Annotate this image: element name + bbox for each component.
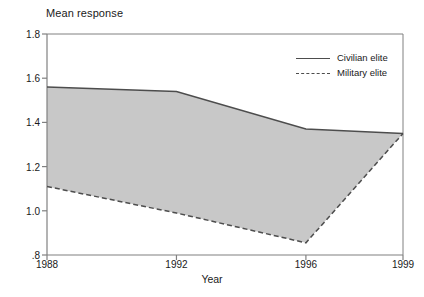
area-fill-between-series: [47, 87, 403, 243]
legend-label-civilian-elite: Civilian elite: [337, 52, 388, 63]
x-tick-label: 1999: [381, 259, 424, 270]
legend-line-dashed-icon: [296, 68, 330, 78]
y-tick-label: 1.8: [6, 29, 40, 40]
chart-legend: Civilian elite Military elite: [296, 50, 388, 80]
y-tick-label: 1.0: [6, 205, 40, 216]
x-tick-label: 1988: [25, 259, 69, 270]
plot-area: [0, 0, 424, 297]
y-tick-label: 1.4: [6, 117, 40, 128]
x-tick-label: 1996: [284, 259, 328, 270]
legend-label-military-elite: Military elite: [337, 67, 387, 78]
legend-item-military-elite: Military elite: [296, 65, 388, 80]
legend-line-solid-icon: [296, 53, 330, 63]
legend-item-civilian-elite: Civilian elite: [296, 50, 388, 65]
x-tick-label: 1992: [154, 259, 198, 270]
x-axis-label: Year: [0, 273, 424, 285]
y-tick-label: 1.2: [6, 161, 40, 172]
y-tick-label: 1.6: [6, 73, 40, 84]
chart-container: Mean response 1.81.61.41.21.0.8 19881992…: [0, 0, 424, 297]
